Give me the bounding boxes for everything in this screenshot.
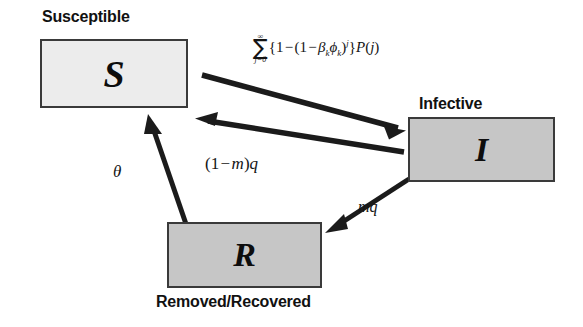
- caption-susceptible: Susceptible: [42, 8, 130, 26]
- formula-minus-b: −: [308, 39, 316, 55]
- caption-infective: Infective: [419, 95, 482, 113]
- sir-model-diagram: Susceptible S Infective I R Removed/Reco…: [0, 0, 583, 327]
- node-susceptible[interactable]: S: [40, 39, 188, 108]
- label-mq-m: m: [358, 198, 370, 215]
- edge-label-s-to-i: ∞ ∑ j=0 {1 − (1 − βkϕk)j}P(j): [253, 33, 379, 64]
- label-theta: θ: [113, 162, 121, 181]
- arrow-removed-to-susceptible: [144, 114, 186, 224]
- arrow-susceptible-to-infective: [202, 75, 406, 140]
- node-infective[interactable]: I: [408, 117, 555, 182]
- node-symbol-infective: I: [475, 133, 488, 167]
- label-one: 1: [211, 154, 220, 173]
- node-removed[interactable]: R: [167, 222, 322, 288]
- formula-body: {1 − (1 − βkϕk)j}P(j): [269, 39, 380, 58]
- sum-lower-limit: j=0: [255, 56, 267, 64]
- formula-open-brace: {: [269, 39, 276, 55]
- edge-label-i-to-s: (1 − m)q: [205, 155, 258, 172]
- formula-probability-symbol: P: [356, 39, 365, 55]
- formula-prob-close-paren: ): [374, 39, 379, 55]
- summation-operator: ∞ ∑ j=0: [253, 33, 268, 64]
- label-m: m: [232, 154, 244, 173]
- node-symbol-removed: R: [233, 238, 256, 272]
- arrow-infective-to-susceptible: [195, 112, 404, 152]
- formula-one-a: 1: [276, 39, 284, 55]
- label-q: q: [250, 154, 259, 173]
- edge-label-r-to-s: θ: [113, 163, 121, 180]
- label-minus: −: [221, 154, 231, 173]
- formula-one-b: 1: [300, 39, 308, 55]
- caption-removed: Removed/Recovered: [156, 293, 311, 311]
- label-mq-q: q: [370, 198, 378, 215]
- node-symbol-susceptible: S: [103, 55, 124, 93]
- edge-label-i-to-r: mq: [358, 199, 378, 215]
- formula-minus-a: −: [285, 39, 293, 55]
- formula-beta: β: [318, 39, 325, 55]
- formula-close-brace: }: [349, 39, 356, 55]
